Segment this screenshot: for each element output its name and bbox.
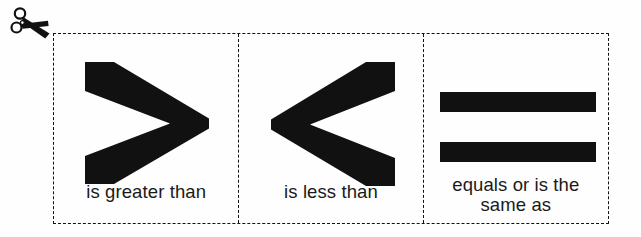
caption-line: equals or is the xyxy=(424,175,608,195)
worksheet: is greater than is less than xyxy=(0,0,641,237)
equals-bar-bottom xyxy=(440,142,596,162)
caption-line: is greater than xyxy=(54,182,238,202)
flash-card-less-than[interactable]: is less than xyxy=(239,34,423,223)
symbol-area-equals xyxy=(424,34,608,175)
flash-card-equals[interactable]: equals or is the same as xyxy=(424,34,608,223)
equals-bar-gap xyxy=(440,112,596,142)
card-caption-less-than: is less than xyxy=(239,182,422,224)
card-caption-greater-than: is greater than xyxy=(54,182,238,224)
less-than-symbol xyxy=(269,62,397,186)
greater-than-symbol xyxy=(83,62,211,184)
equals-bar-top xyxy=(440,92,596,112)
symbol-area-greater-than xyxy=(54,34,238,182)
flash-card-greater-than[interactable]: is greater than xyxy=(54,34,239,223)
symbol-area-less-than xyxy=(239,34,422,182)
scissors-icon xyxy=(9,5,53,45)
card-caption-equals: equals or is the same as xyxy=(424,175,608,223)
cut-region: is greater than is less than xyxy=(53,33,609,224)
caption-line: same as xyxy=(424,195,608,215)
equals-symbol xyxy=(440,92,596,162)
